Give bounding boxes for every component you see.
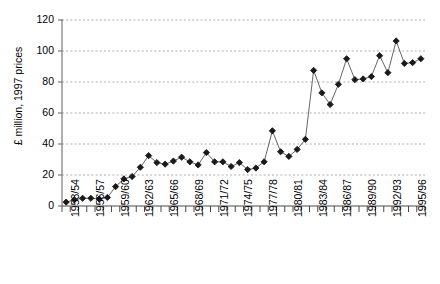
x-axis-tick-label: 1965/66: [169, 179, 180, 217]
y-axis-tick-label: 80: [20, 76, 54, 87]
series-line: [66, 41, 421, 202]
data-point-marker: [393, 38, 399, 44]
data-point-marker: [170, 158, 176, 164]
data-point-marker: [410, 60, 416, 66]
data-point-marker: [228, 163, 234, 169]
data-point-marker: [179, 154, 185, 160]
data-point-marker: [327, 101, 333, 107]
data-point-marker: [377, 53, 383, 59]
chart-container: £ million, 1997 prices 020406080100120 1…: [0, 0, 440, 284]
x-axis-tick-label: 1989/90: [367, 179, 378, 217]
x-axis-tick-label: 1977/78: [268, 179, 279, 217]
y-axis-tick-label: 40: [20, 138, 54, 149]
data-point-marker: [401, 60, 407, 66]
data-point-marker: [368, 73, 374, 79]
data-point-marker: [162, 161, 168, 167]
data-point-marker: [385, 70, 391, 76]
data-point-marker: [220, 159, 226, 165]
x-axis-tick-label: 1980/81: [293, 179, 304, 217]
x-axis-tick-label: 1968/69: [194, 179, 205, 217]
data-point-marker: [360, 76, 366, 82]
x-axis-tick-label: 1995/96: [417, 179, 428, 217]
y-axis-tick-label: 60: [20, 107, 54, 118]
data-point-marker: [319, 90, 325, 96]
y-axis-tick-label: 120: [20, 14, 54, 25]
x-axis-tick-label: 1971/72: [219, 179, 230, 217]
data-point-marker: [311, 67, 317, 73]
data-point-marker: [187, 159, 193, 165]
x-axis-tick-label: 1986/87: [342, 179, 353, 217]
x-axis-tick-label: 1962/63: [144, 179, 155, 217]
plot-area: [0, 0, 440, 284]
x-axis-tick-label: 1992/93: [392, 179, 403, 217]
data-point-marker: [344, 56, 350, 62]
y-axis-tick-label: 100: [20, 45, 54, 56]
data-point-marker: [278, 149, 284, 155]
data-point-marker: [269, 128, 275, 134]
x-axis-tick-label: 1974/75: [243, 179, 254, 217]
x-axis-tick-label: 1956/57: [95, 179, 106, 217]
y-axis-tick-label: 0: [20, 200, 54, 211]
x-axis-tick-label: 1959/60: [120, 179, 131, 217]
x-axis-tick-label: 1983/84: [318, 179, 329, 217]
data-point-marker: [195, 162, 201, 168]
data-point-marker: [418, 56, 424, 62]
y-axis-tick-label: 20: [20, 169, 54, 180]
x-axis-tick-label: 1953/54: [70, 179, 81, 217]
